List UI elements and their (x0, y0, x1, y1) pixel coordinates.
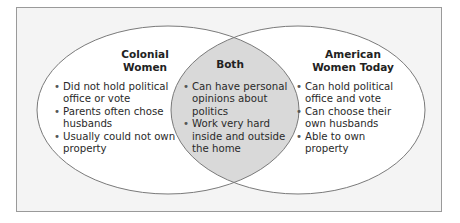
left-set-list: Did not hold political office or vote Pa… (53, 81, 178, 155)
list-item: Did not hold political office or vote (53, 81, 178, 106)
list-item: Can have personal opinions about politic… (182, 81, 294, 118)
overlap-title: Both (200, 58, 260, 71)
list-item: Can choose their own husbands (295, 106, 407, 131)
list-item: Able to own property (295, 131, 407, 156)
list-item: Work very hard inside and outside the ho… (182, 118, 294, 155)
left-set-title: Colonial Women (95, 48, 195, 74)
list-item: Can hold political office and vote (295, 81, 407, 106)
overlap-list: Can have personal opinions about politic… (182, 81, 294, 155)
right-set-title: American Women Today (293, 48, 413, 74)
list-item: Usually could not own property (53, 131, 178, 156)
right-set-list: Can hold political office and vote Can c… (295, 81, 407, 155)
list-item: Parents often chose husbands (53, 106, 178, 131)
